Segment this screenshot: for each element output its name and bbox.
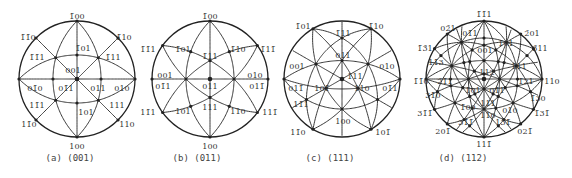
miller-index-label: 11̄1 — [29, 101, 44, 110]
miller-index-label: 1̄30 — [530, 94, 545, 103]
projection-center-pole — [75, 77, 80, 82]
miller-index-label: 110 — [544, 77, 559, 86]
miller-index-label: 1̄01 — [498, 39, 513, 48]
miller-index-label: 11̄0 — [290, 128, 305, 137]
pole-point — [97, 56, 100, 59]
miller-index-label: 1̄11 — [511, 62, 526, 71]
miller-index-label: 111 — [480, 99, 495, 108]
miller-index-label: 111 — [347, 72, 362, 81]
pole-point — [433, 108, 436, 111]
pole-point — [460, 41, 463, 44]
miller-index-label: 2̄1̄1 — [437, 77, 452, 86]
miller-index-label: 1̄11 — [105, 53, 120, 62]
miller-index-label: 11̄1 — [140, 108, 155, 117]
miller-index-label: 1̄00 — [460, 103, 475, 112]
pole-point — [525, 54, 528, 57]
pole-point — [497, 95, 500, 98]
pole-point — [462, 61, 465, 64]
miller-index-label: 011 — [202, 82, 217, 91]
pole-point — [208, 96, 211, 99]
miller-index-label: 31̄1̄ — [458, 118, 473, 127]
miller-index-label: 110 — [119, 120, 134, 129]
projection-panel-d: 1̄1̄102̄101̄12̄011̄011̄3̄13̄1100111̄31̄1… — [413, 10, 559, 149]
miller-index-label: 1̄11̄ — [260, 45, 275, 54]
pole-point — [282, 77, 285, 80]
miller-index-label: 010 — [379, 62, 394, 71]
pole-point — [512, 101, 515, 104]
pole-point — [75, 135, 78, 138]
miller-index-label: 1̄01 — [175, 45, 190, 54]
stereographic-projection-figure: 1̄001̄1̄01̄101̄011̄1̄11̄1100101̄001̄1011… — [0, 0, 572, 178]
pole-point — [494, 48, 497, 51]
pole-point — [482, 59, 485, 62]
miller-index-label: 110 — [354, 84, 369, 93]
projection-center-pole — [208, 77, 213, 82]
projection-panel-b: 1̄001̄1̄11̄011̄111̄101̄11̄00101̄10110100… — [140, 12, 277, 151]
pole-point — [439, 54, 442, 57]
miller-index-label: 3̄11 — [532, 44, 547, 53]
pole-point — [540, 77, 543, 80]
miller-index-label: 01̄0 — [27, 84, 42, 93]
pole-point — [529, 90, 532, 93]
miller-index-label: 112 — [479, 68, 494, 77]
pole-point — [498, 77, 501, 80]
pole-point — [161, 111, 164, 114]
pole-point — [311, 128, 314, 131]
miller-index-label: 001 — [289, 62, 304, 71]
pole-point — [471, 48, 474, 51]
projection-center-pole — [340, 77, 345, 82]
miller-index-label: 1̄10 — [368, 22, 383, 31]
pole-point — [482, 135, 485, 138]
miller-index-label: 02̄1 — [440, 24, 455, 33]
miller-index-label: 010 — [114, 84, 129, 93]
miller-index-label: 01̄1 — [155, 82, 170, 91]
caption-panel-a: (a) (001) — [46, 153, 95, 163]
miller-index-label: 201̄ — [435, 127, 450, 136]
pole-point — [54, 99, 57, 102]
miller-index-label: 01̄1 — [382, 84, 397, 93]
pole-point — [467, 77, 470, 80]
projection-panel-c: 1̄011̄101̄11011001010111011̄101̄11001̄11… — [282, 21, 401, 137]
miller-index-label: 11̄0 — [21, 120, 36, 129]
miller-index-label: 001 — [157, 71, 172, 80]
pole-point — [366, 62, 369, 65]
pole-point — [266, 77, 269, 80]
miller-index-label: 110 — [230, 107, 245, 116]
miller-index-label: 101 — [78, 108, 93, 117]
miller-index-label: 011 — [90, 84, 105, 93]
miller-index-label: 111 — [109, 101, 124, 110]
pole-point — [208, 135, 211, 138]
miller-index-label: 1̄11 — [202, 52, 217, 61]
miller-index-label: 13̄1̄ — [495, 118, 510, 127]
miller-index-label: 11̄3 — [428, 58, 443, 67]
miller-index-label: 100 — [202, 142, 217, 151]
pole-point — [433, 47, 436, 50]
miller-index-label: 100 — [69, 142, 84, 151]
miller-index-label: 31̄0 — [425, 91, 440, 100]
miller-index-label: 1̄1̄1 — [140, 45, 155, 54]
miller-index-label: 01̄1 — [462, 29, 477, 38]
pole-point — [311, 27, 314, 30]
miller-index-label: 01̄1 — [58, 84, 73, 93]
pole-point — [51, 77, 54, 80]
miller-index-label: 011̄ — [249, 82, 264, 91]
miller-index-label: 001 — [477, 46, 492, 55]
miller-index-label: 110 — [480, 111, 495, 120]
miller-index-label: 1̄01 — [465, 86, 480, 95]
projection-center-pole — [482, 77, 487, 82]
miller-index-label: 100 — [335, 117, 350, 126]
caption-panel-d: (d) (112) — [439, 153, 488, 163]
pole-point — [519, 32, 522, 35]
miller-index-label: 1̄01 — [295, 22, 310, 31]
pole-point — [99, 77, 102, 80]
miller-index-label: 1̄21 — [518, 77, 533, 86]
miller-index-label: 1̄1̄0 — [20, 33, 35, 42]
pole-point — [161, 44, 164, 47]
miller-index-label: 01̄1 — [489, 86, 504, 95]
pole-point — [340, 107, 343, 110]
miller-index-label: 101 — [175, 107, 190, 116]
miller-index-label: 011 — [335, 51, 350, 60]
miller-index-label: 111̄ — [262, 108, 277, 117]
miller-index-label: 1̄00 — [202, 12, 217, 21]
miller-index-label: 11̄1 — [293, 100, 308, 109]
